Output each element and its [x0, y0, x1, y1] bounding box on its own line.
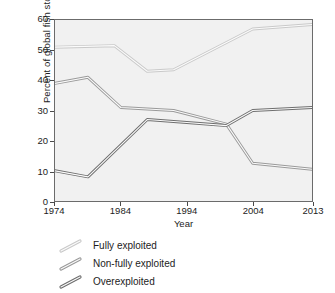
- legend-label: Overexploited: [93, 276, 155, 287]
- x-axis-title: Year: [54, 218, 313, 229]
- x-tick-label: 1994: [167, 205, 207, 216]
- legend-item: Fully exploited: [58, 237, 308, 255]
- chart-legend: Fully exploitedNon-fully exploitedOverex…: [58, 237, 308, 291]
- x-tick-label: 1984: [100, 205, 140, 216]
- x-tick-label: 2004: [233, 205, 273, 216]
- legend-item: Non-fully exploited: [58, 255, 308, 273]
- x-tick-mark: [120, 202, 121, 206]
- legend-swatch-icon: [58, 273, 84, 291]
- x-tick-mark: [54, 202, 55, 206]
- legend-swatch-icon: [58, 237, 84, 255]
- legend-label: Non-fully exploited: [93, 258, 175, 269]
- chart-screenshot: Percent of global fish stocks 0102030405…: [0, 0, 335, 293]
- x-tick-label: 2013: [293, 205, 333, 216]
- y-tick-label: 20: [28, 136, 48, 146]
- series-line-inner: [55, 25, 312, 72]
- legend-swatch-icon: [58, 255, 84, 273]
- x-tick-mark: [313, 202, 314, 206]
- y-tick-label: 30: [28, 106, 48, 116]
- y-tick-label: 60: [28, 14, 48, 24]
- data-lines: [55, 20, 312, 201]
- x-tick-label: 1974: [34, 205, 74, 216]
- plot-area: [54, 19, 313, 202]
- y-tick-label: 10: [28, 167, 48, 177]
- x-tick-mark: [253, 202, 254, 206]
- x-tick-mark: [187, 202, 188, 206]
- y-tick-label: 40: [28, 75, 48, 85]
- y-tick-label: 50: [28, 45, 48, 55]
- legend-label: Fully exploited: [93, 240, 157, 251]
- legend-item: Overexploited: [58, 273, 308, 291]
